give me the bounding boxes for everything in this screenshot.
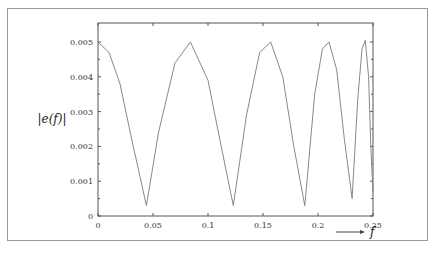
y-tick-label: 0.001 bbox=[70, 177, 93, 186]
y-axis-label: |e(f)| bbox=[38, 112, 67, 126]
x-tick-label: 0.2 bbox=[312, 221, 325, 230]
x-tick-label: 0.15 bbox=[254, 221, 272, 230]
x-tick-label: 0.05 bbox=[144, 221, 162, 230]
y-tick-label: 0.004 bbox=[70, 73, 93, 82]
x-tick-label: 0 bbox=[95, 221, 100, 230]
chart-plot: 00.050.10.150.20.2500.0010.0020.0030.004… bbox=[0, 0, 436, 258]
x-tick-label: 0.1 bbox=[202, 221, 215, 230]
y-tick-label: 0.003 bbox=[70, 108, 93, 117]
y-tick-label: 0 bbox=[88, 212, 93, 221]
y-tick-label: 0.002 bbox=[70, 142, 93, 151]
y-tick-label: 0.005 bbox=[70, 38, 93, 47]
series-line bbox=[98, 40, 373, 205]
arrow-head-icon bbox=[360, 230, 365, 234]
